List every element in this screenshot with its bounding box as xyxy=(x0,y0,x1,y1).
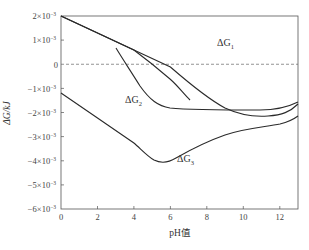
svg-text:0: 0 xyxy=(59,212,63,222)
svg-text:1×10−3: 1×10−3 xyxy=(33,35,57,45)
svg-text:−3×10−3: −3×10−3 xyxy=(28,132,56,142)
svg-text:2×10−3: 2×10−3 xyxy=(33,11,57,21)
delta-g-vs-ph-chart: 2×10−3 1×10−3 0 −1×10−3 −2×10−3 −3×10−3 … xyxy=(0,0,309,250)
svg-text:−4×10−3: −4×10−3 xyxy=(28,156,56,166)
svg-text:8: 8 xyxy=(205,212,209,222)
x-axis-label: pH值 xyxy=(169,227,191,238)
svg-text:−2×10−3: −2×10−3 xyxy=(28,108,56,118)
y-axis-tick-labels: 2×10−3 1×10−3 0 −1×10−3 −2×10−3 −3×10−3 … xyxy=(28,11,58,214)
svg-text:−6×10−3: −6×10−3 xyxy=(28,204,56,214)
label-delta-g1: ΔG1 xyxy=(217,37,234,50)
plot-frame xyxy=(61,16,298,209)
curve-delta-g2 xyxy=(61,16,190,100)
y-axis-ticks xyxy=(61,40,64,185)
svg-text:−1×10−3: −1×10−3 xyxy=(28,84,56,94)
svg-text:2: 2 xyxy=(95,212,99,222)
svg-text:−5×10−3: −5×10−3 xyxy=(28,180,56,190)
svg-text:10: 10 xyxy=(239,212,248,222)
x-axis-ticks xyxy=(98,206,280,209)
y-axis-label: ΔG/kJ xyxy=(2,100,12,125)
svg-text:12: 12 xyxy=(276,212,285,222)
svg-text:4: 4 xyxy=(132,212,137,222)
curve-delta-g1 xyxy=(61,16,298,116)
label-delta-g3: ΔG3 xyxy=(177,153,194,166)
label-delta-g2: ΔG2 xyxy=(125,94,142,107)
svg-text:0: 0 xyxy=(54,60,58,70)
x-axis-tick-labels: 0 2 4 6 8 10 12 xyxy=(59,212,284,222)
svg-text:6: 6 xyxy=(168,212,172,222)
curve-delta-g3 xyxy=(61,93,298,162)
